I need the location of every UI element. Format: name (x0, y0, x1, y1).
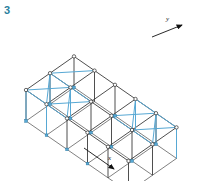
x-axis-label: x (107, 154, 112, 162)
y-axis-label: y (165, 15, 170, 23)
figure-canvas: 3 (0, 0, 200, 181)
x-axis-arrow: x (84, 148, 114, 169)
y-axis-arrow: y (152, 15, 182, 37)
structural-frame-drawing: y x (0, 0, 200, 181)
roof-bracing (26, 71, 177, 145)
